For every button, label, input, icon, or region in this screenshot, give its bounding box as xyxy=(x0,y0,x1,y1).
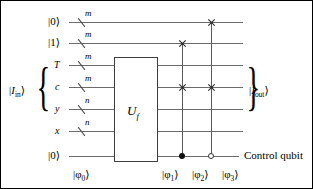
control-qubit-annotation: Control qubit xyxy=(244,150,303,161)
swap-1-target-top-icon[interactable] xyxy=(178,39,187,48)
state-label-phi3: |φ3⟩ xyxy=(222,169,239,184)
bus-size-w2: m xyxy=(85,30,92,39)
bus-size-w4: m xyxy=(85,74,92,83)
state-label-phi2: |φ2⟩ xyxy=(192,169,209,184)
input-group-label: |Iin⟩ xyxy=(9,85,25,100)
wire-label-w4: c xyxy=(55,82,59,92)
wire-w2 xyxy=(69,43,243,44)
input-group-brace: { xyxy=(37,61,51,113)
wire-label-w5: y xyxy=(55,104,59,114)
wire-label-w6: x xyxy=(55,126,59,136)
swap-2-anticontrol-circle-icon[interactable] xyxy=(208,153,214,159)
gate-uf-label: Uf xyxy=(127,104,139,123)
state-label-phi0: |φ0⟩ xyxy=(73,169,90,184)
swap-1-target-bottom-icon[interactable] xyxy=(178,83,187,92)
bus-size-w1: m xyxy=(85,9,92,18)
bus-size-w3: m xyxy=(85,52,92,61)
swap-2-target-bottom-icon[interactable] xyxy=(207,83,216,92)
swap-2-target-top-icon[interactable] xyxy=(207,18,216,27)
bus-size-w5: n xyxy=(85,96,90,105)
wire-label-w3: T xyxy=(54,60,60,70)
state-label-phi1: |φ1⟩ xyxy=(162,169,179,184)
wire-w1 xyxy=(69,22,243,23)
wire-label-w1: |0⟩ xyxy=(48,16,60,27)
swap-1-control-dot-icon[interactable] xyxy=(179,153,185,159)
wire-label-w2: |1⟩ xyxy=(48,37,60,48)
swap-1-vertical-line xyxy=(182,43,183,156)
quantum-circuit-figure: |Iin⟩ { |0⟩ m |1⟩ m T m c m y n x n |0⟩ … xyxy=(0,0,313,189)
bus-size-w6: n xyxy=(85,118,90,127)
wire-label-w7: |0⟩ xyxy=(48,150,60,161)
output-group-label: |Iout⟩ xyxy=(249,85,269,100)
